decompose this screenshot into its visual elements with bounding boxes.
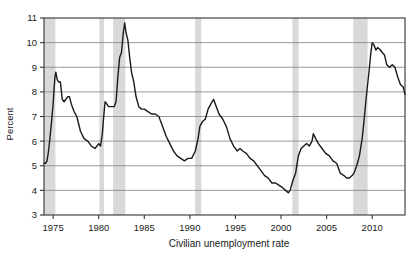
x-tick-label-2005: 2005 [316,222,337,233]
chart-svg: 34567891011 1975198019851990199520002005… [0,0,418,260]
y-tick-label-3: 3 [32,209,37,220]
y-tick-label-5: 5 [32,160,37,171]
x-tick-label-1975: 1975 [43,222,64,233]
y-tick-label-8: 8 [32,86,37,97]
y-tick-label-11: 11 [27,12,37,23]
y-tick-label-9: 9 [32,62,37,73]
unemployment-rate-chart: 34567891011 1975198019851990199520002005… [0,0,418,260]
x-tick-label-1980: 1980 [88,222,109,233]
x-tick-label-1990: 1990 [179,222,200,233]
y-axis-label: Percent [4,107,15,140]
x-tick-label-1995: 1995 [225,222,246,233]
x-tick-label-2000: 2000 [270,222,291,233]
y-tick-label-7: 7 [32,111,37,122]
y-tick-label-6: 6 [32,136,37,147]
y-tick-label-4: 4 [32,185,37,196]
x-tick-label-1985: 1985 [134,222,155,233]
x-tick-label-2010: 2010 [362,222,383,233]
x-axis-title: Civilian unemployment rate [169,238,290,249]
y-tick-label-10: 10 [26,37,37,48]
